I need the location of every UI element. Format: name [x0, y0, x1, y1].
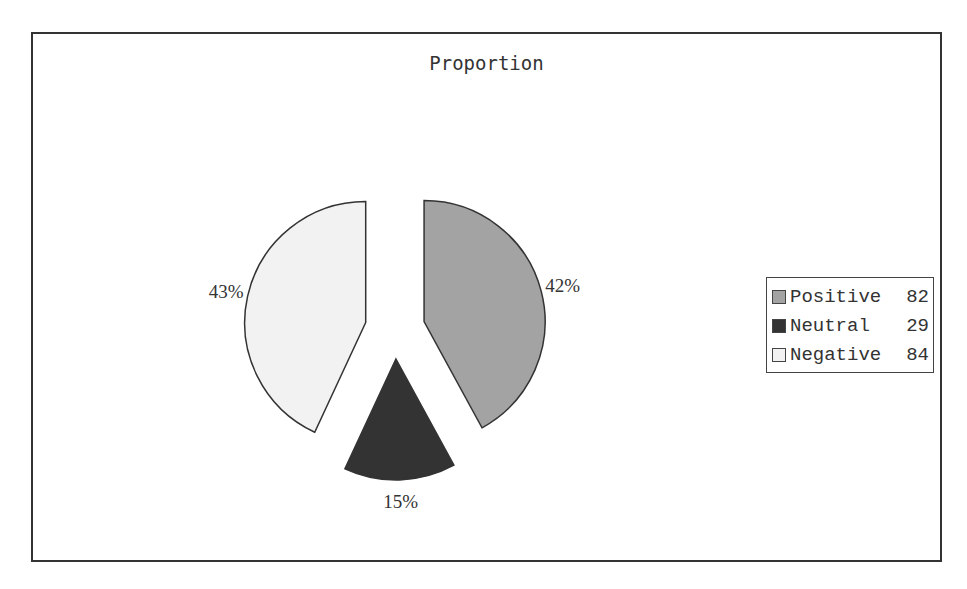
legend-item-negative: Negative 84 [772, 340, 929, 369]
legend-item-positive: Positive 82 [772, 282, 929, 311]
legend-label: Neutral [790, 315, 906, 337]
legend-swatch-positive [772, 290, 786, 304]
chart-legend: Positive 82 Neutral 29 Negative 84 [766, 277, 934, 373]
slice-neutral [345, 359, 454, 480]
legend-item-neutral: Neutral 29 [772, 311, 929, 340]
slice-label-positive: 42% [545, 275, 580, 296]
slice-label-negative: 43% [209, 281, 244, 302]
legend-swatch-neutral [772, 319, 786, 333]
chart-frame: Proportion 42% 15% 43% Positive 82 Neutr… [31, 32, 942, 562]
legend-label: Positive [790, 286, 906, 308]
slice-label-neutral: 15% [383, 491, 418, 512]
slice-negative [245, 202, 366, 433]
legend-label: Negative [790, 344, 906, 366]
legend-swatch-negative [772, 348, 786, 362]
legend-value: 82 [906, 286, 929, 308]
legend-value: 29 [906, 315, 929, 337]
legend-value: 84 [906, 344, 929, 366]
slice-positive [424, 201, 545, 428]
